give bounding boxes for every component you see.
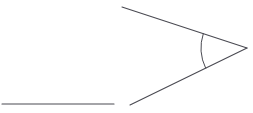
figure-background (0, 0, 253, 113)
figure-svg (0, 0, 253, 113)
geometry-figure-canvas (0, 0, 253, 113)
